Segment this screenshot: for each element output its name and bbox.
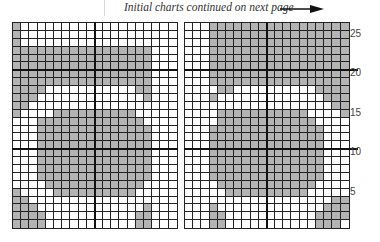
grid-cell <box>79 173 87 181</box>
grid-cell <box>291 39 299 47</box>
grid-cell <box>234 86 242 94</box>
grid-cell <box>79 126 87 134</box>
grid-cell <box>226 197 234 205</box>
grid-cell <box>234 189 242 197</box>
grid-cell <box>29 181 37 189</box>
grid-cell <box>283 165 291 173</box>
grid-cell <box>332 149 340 157</box>
grid-cell <box>185 110 193 118</box>
grid-cell <box>210 118 218 126</box>
grid-cell <box>234 197 242 205</box>
grid-cell <box>291 118 299 126</box>
grid-cell <box>242 110 250 118</box>
grid-cell <box>128 212 136 220</box>
center-vertical-guide-right <box>266 22 268 228</box>
grid-cell <box>21 39 29 47</box>
grid-cell <box>341 204 349 212</box>
grid-cell <box>79 55 87 63</box>
grid-cell <box>62 212 70 220</box>
grid-cell <box>136 94 144 102</box>
grid-cell <box>308 133 316 141</box>
grid-cell <box>70 31 78 39</box>
grid-cell <box>210 102 218 110</box>
grid-cell <box>324 39 332 47</box>
grid-cell <box>341 47 349 55</box>
grid-cell <box>13 189 21 197</box>
grid-cell <box>234 39 242 47</box>
grid-cell <box>160 39 168 47</box>
grid-cell <box>291 55 299 63</box>
grid-cell <box>185 78 193 86</box>
grid-cell <box>136 197 144 205</box>
grid-cell <box>95 31 103 39</box>
grid-cell <box>210 110 218 118</box>
grid-cell <box>136 165 144 173</box>
grid-cell <box>300 118 308 126</box>
grid-cell <box>136 157 144 165</box>
grid-cell <box>291 220 299 228</box>
grid-cell <box>308 118 316 126</box>
grid-cell <box>128 165 136 173</box>
grid-cell <box>29 118 37 126</box>
grid-cell <box>128 55 136 63</box>
grid-cell <box>111 189 119 197</box>
grid-cell <box>169 94 177 102</box>
grid-cell <box>13 102 21 110</box>
grid-cell <box>193 110 201 118</box>
grid-cell <box>103 212 111 220</box>
grid-cell <box>218 118 226 126</box>
grid-cell <box>160 149 168 157</box>
grid-cell <box>218 181 226 189</box>
grid-cell <box>128 181 136 189</box>
grid-cell <box>226 55 234 63</box>
grid-cell <box>111 23 119 31</box>
grid-cell <box>324 165 332 173</box>
grid-cell <box>201 39 209 47</box>
row-label-15: 15 <box>350 108 361 118</box>
grid-cell <box>193 197 201 205</box>
grid-cell <box>95 220 103 228</box>
grid-cell <box>332 94 340 102</box>
grid-cell <box>62 204 70 212</box>
grid-cell <box>21 78 29 86</box>
grid-cell <box>242 189 250 197</box>
grid-cell <box>300 181 308 189</box>
grid-cell <box>54 181 62 189</box>
grid-cell <box>46 55 54 63</box>
grid-cell <box>251 173 259 181</box>
grid-cell <box>226 47 234 55</box>
grid-cell <box>144 220 152 228</box>
grid-cell <box>13 126 21 134</box>
grid-cell <box>95 157 103 165</box>
grid-cell <box>46 165 54 173</box>
grid-cell <box>62 78 70 86</box>
grid-cell <box>62 47 70 55</box>
grid-cell <box>291 197 299 205</box>
grid-cell <box>29 39 37 47</box>
grid-cell <box>218 212 226 220</box>
grid-cell <box>29 173 37 181</box>
grid-cell <box>152 189 160 197</box>
grid-cell <box>38 23 46 31</box>
grid-cell <box>218 102 226 110</box>
grid-cell <box>201 86 209 94</box>
grid-cell <box>218 39 226 47</box>
grid-cell <box>46 102 54 110</box>
grid-cell <box>193 55 201 63</box>
horizontal-guide-row20-right <box>184 69 358 71</box>
grid-cell <box>185 149 193 157</box>
grid-cell <box>275 31 283 39</box>
grid-cell <box>283 102 291 110</box>
grid-cell <box>136 86 144 94</box>
grid-cell <box>242 157 250 165</box>
grid-cell <box>300 189 308 197</box>
grid-cell <box>193 133 201 141</box>
grid-cell <box>136 47 144 55</box>
grid-cell <box>21 126 29 134</box>
grid-cell <box>226 189 234 197</box>
grid-cell <box>341 110 349 118</box>
grid-cell <box>283 149 291 157</box>
grid-cell <box>332 31 340 39</box>
grid-cell <box>21 149 29 157</box>
grid-cell <box>103 55 111 63</box>
